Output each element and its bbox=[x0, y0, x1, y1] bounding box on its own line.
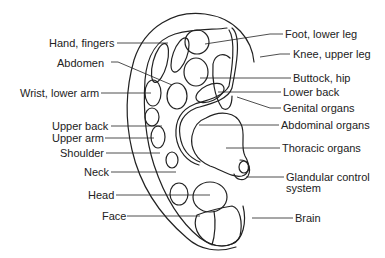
lobe-abdomen bbox=[167, 36, 192, 75]
label-neck: Neck bbox=[84, 166, 109, 178]
label-upper-arm: Upper arm bbox=[52, 132, 104, 144]
triangular-fossa bbox=[213, 55, 232, 110]
lobe-buttock bbox=[184, 58, 208, 86]
ear-reflexology-diagram: Hand, fingers Abdomen Wrist, lower arm U… bbox=[0, 0, 385, 258]
label-abdominal-organs: Abdominal organs bbox=[281, 119, 370, 131]
label-thoracic-organs: Thoracic organs bbox=[282, 142, 361, 154]
label-abdomen: Abdomen bbox=[57, 57, 104, 69]
antihelix-outer bbox=[180, 28, 238, 162]
label-knee-upper-leg: Knee, upper leg bbox=[293, 48, 371, 60]
label-shoulder: Shoulder bbox=[60, 147, 104, 159]
label-brain: Brain bbox=[295, 212, 321, 224]
lobe-face bbox=[170, 183, 188, 205]
lobe-back bbox=[167, 83, 187, 109]
label-upper-back: Upper back bbox=[52, 120, 108, 132]
label-head: Head bbox=[88, 189, 114, 201]
label-buttock-hip: Buttock, hip bbox=[293, 72, 350, 84]
label-wrist-lower-arm: Wrist, lower arm bbox=[20, 87, 99, 99]
helix-inner bbox=[144, 28, 244, 246]
scapha-hand bbox=[148, 42, 172, 84]
scapha-shoulder bbox=[151, 126, 165, 148]
lobe-neck bbox=[166, 152, 178, 168]
label-glandular-system: system bbox=[286, 182, 321, 194]
label-genital-organs: Genital organs bbox=[283, 102, 355, 114]
label-lower-back: Lower back bbox=[283, 86, 339, 98]
lobe-gland bbox=[239, 161, 249, 173]
label-foot-lower-leg: Foot, lower leg bbox=[285, 28, 357, 40]
scapha-elbow bbox=[145, 108, 159, 126]
label-face: Face bbox=[102, 210, 126, 222]
label-hand-fingers: Hand, fingers bbox=[49, 37, 114, 49]
concha bbox=[192, 113, 249, 176]
